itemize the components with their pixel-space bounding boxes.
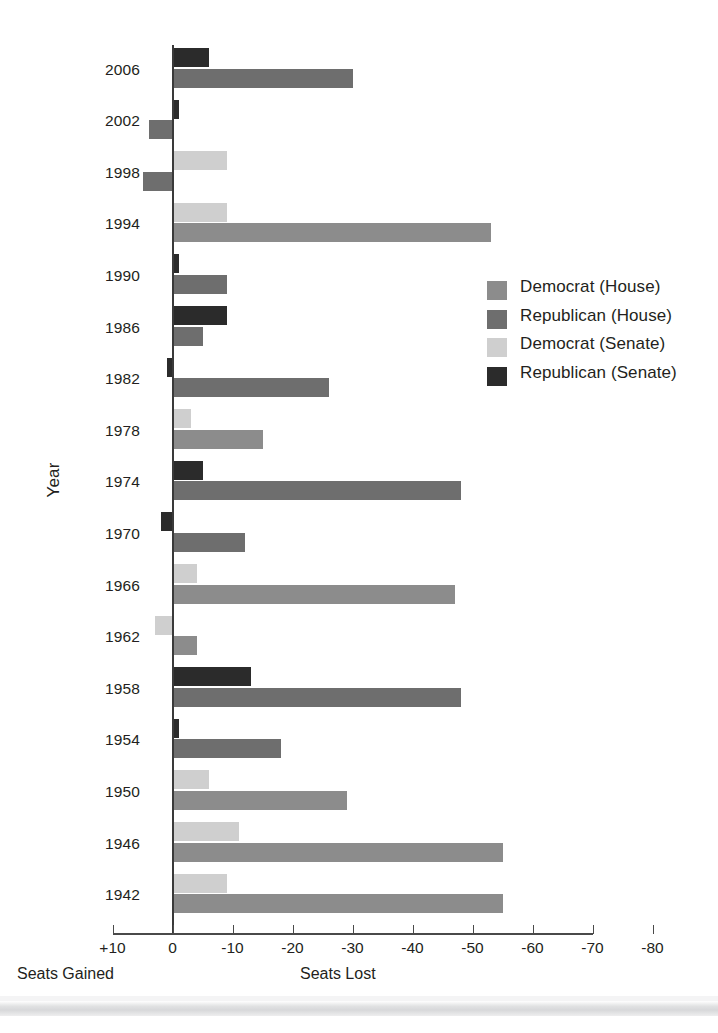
zero-axis-line xyxy=(172,45,174,933)
legend-swatch xyxy=(487,367,507,386)
x-axis-right-label: Seats Lost xyxy=(300,965,376,983)
y-axis-tick-label: 1966 xyxy=(30,577,140,595)
bar xyxy=(173,688,461,707)
x-axis-tick-label: -50 xyxy=(443,939,503,957)
x-axis-tick-label: -20 xyxy=(263,939,323,957)
x-axis-tick xyxy=(533,925,535,934)
x-axis-tick xyxy=(593,925,595,934)
y-axis-tick-label: 1942 xyxy=(30,886,140,904)
y-axis-tick-label: 1998 xyxy=(30,164,140,182)
chart-row: 1946 xyxy=(0,822,718,862)
x-axis-tick-label: -80 xyxy=(623,939,683,957)
bar xyxy=(173,203,227,222)
bar xyxy=(173,378,329,397)
y-axis-tick-label: 1946 xyxy=(30,835,140,853)
chart-row: 1942 xyxy=(0,874,718,914)
bar xyxy=(173,564,197,583)
bar xyxy=(173,223,491,242)
legend-swatch xyxy=(487,310,507,329)
chart-row: 2006 xyxy=(0,48,718,88)
bar xyxy=(173,843,503,862)
bar xyxy=(173,894,503,913)
bar xyxy=(173,533,245,552)
x-axis-tick xyxy=(293,925,295,934)
chart-row: 1994 xyxy=(0,203,718,243)
bar xyxy=(173,327,203,346)
bar xyxy=(173,585,455,604)
bar xyxy=(173,739,281,758)
chart-row: 1970 xyxy=(0,512,718,552)
x-axis-tick xyxy=(473,925,475,934)
x-axis-tick-label: -40 xyxy=(383,939,443,957)
chart-row: 1958 xyxy=(0,667,718,707)
y-axis-tick-label: 1974 xyxy=(30,473,140,491)
bar xyxy=(173,306,227,325)
y-axis-tick-label: 1970 xyxy=(30,525,140,543)
x-axis-tick xyxy=(173,925,175,934)
x-axis-tick-label: +10 xyxy=(83,939,143,957)
y-axis-tick-label: 2002 xyxy=(30,112,140,130)
bar xyxy=(173,822,239,841)
bar xyxy=(149,120,173,139)
bar xyxy=(173,636,197,655)
legend-label: Democrat (House) xyxy=(520,277,660,297)
y-axis-tick-label: 1958 xyxy=(30,680,140,698)
x-axis-tick xyxy=(653,925,655,934)
bar xyxy=(173,69,353,88)
y-axis-tick-label: 1954 xyxy=(30,731,140,749)
chart-row: 1978 xyxy=(0,409,718,449)
chart-row: 1974 xyxy=(0,461,718,501)
x-axis-tick xyxy=(413,925,415,934)
bar xyxy=(173,275,227,294)
legend-swatch xyxy=(487,338,507,357)
chart-row: 1954 xyxy=(0,719,718,759)
y-axis-tick-label: 2006 xyxy=(30,61,140,79)
x-axis-left-label: Seats Gained xyxy=(17,965,114,983)
x-axis-tick-label: 0 xyxy=(143,939,203,957)
chart-row: 2002 xyxy=(0,100,718,140)
y-axis-tick-label: 1986 xyxy=(30,319,140,337)
legend-label: Republican (House) xyxy=(520,306,672,326)
bar xyxy=(173,430,263,449)
scan-artifact-band xyxy=(0,1001,718,1016)
legend-swatch xyxy=(487,281,507,300)
legend-label: Democrat (Senate) xyxy=(520,334,665,354)
y-axis-tick-label: 1978 xyxy=(30,422,140,440)
chart-row: 1962 xyxy=(0,616,718,656)
y-axis-tick-label: 1962 xyxy=(30,628,140,646)
x-axis-tick-label: -60 xyxy=(503,939,563,957)
x-axis-tick xyxy=(353,925,355,934)
bar xyxy=(173,48,209,67)
chart-row: 1966 xyxy=(0,564,718,604)
bar xyxy=(173,770,209,789)
x-axis-tick-label: -10 xyxy=(203,939,263,957)
bar xyxy=(173,409,191,428)
y-axis-tick-label: 1994 xyxy=(30,215,140,233)
legend-label: Republican (Senate) xyxy=(520,363,677,383)
bar xyxy=(173,461,203,480)
x-axis-tick-label: -30 xyxy=(323,939,383,957)
bar xyxy=(173,791,347,810)
bar xyxy=(173,667,251,686)
y-axis-tick-label: 1982 xyxy=(30,370,140,388)
plot-area: 2006200219981994199019861982197819741970… xyxy=(0,40,718,920)
y-axis-tick-label: 1950 xyxy=(30,783,140,801)
x-axis: Seats Gained Seats Lost +100-10-20-30-40… xyxy=(0,925,718,985)
bar xyxy=(173,874,227,893)
bar xyxy=(143,172,173,191)
bar xyxy=(173,481,461,500)
y-axis-tick-label: 1990 xyxy=(30,267,140,285)
chart-row: 1950 xyxy=(0,770,718,810)
bar xyxy=(173,151,227,170)
chart-row: 1998 xyxy=(0,151,718,191)
chart-figure: Year 20062002199819941990198619821978197… xyxy=(0,0,718,1033)
x-axis-tick-label: -70 xyxy=(563,939,623,957)
x-axis-tick xyxy=(113,925,115,934)
x-axis-tick xyxy=(233,925,235,934)
bar xyxy=(155,616,173,635)
bar xyxy=(161,512,173,531)
